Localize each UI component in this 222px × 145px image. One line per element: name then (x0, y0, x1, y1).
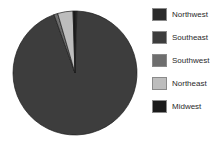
legend-swatch-northwest (152, 8, 167, 21)
legend-swatch-midwest (152, 100, 167, 113)
legend-item-southeast[interactable]: Southeast (152, 26, 222, 49)
legend-swatch-southeast (152, 31, 167, 44)
legend-item-southwest[interactable]: Southwest (152, 49, 222, 72)
legend-item-midwest[interactable]: Midwest (152, 95, 222, 118)
chart-legend: Northwest Southeast Southwest Northeast … (152, 3, 222, 121)
pie-chart-plot-area (12, 10, 138, 136)
legend-label-southeast: Southeast (172, 33, 208, 42)
pie-chart-figure: Northwest Southeast Southwest Northeast … (0, 0, 222, 145)
pie-chart-svg (12, 10, 138, 136)
legend-label-southwest: Southwest (172, 56, 209, 65)
legend-item-northeast[interactable]: Northeast (152, 72, 222, 95)
pie-slice-group (13, 11, 137, 135)
legend-label-midwest: Midwest (172, 102, 201, 111)
legend-item-northwest[interactable]: Northwest (152, 3, 222, 26)
legend-swatch-northeast (152, 77, 167, 90)
legend-swatch-southwest (152, 54, 167, 67)
legend-label-northeast: Northeast (172, 79, 207, 88)
legend-label-northwest: Northwest (172, 10, 208, 19)
